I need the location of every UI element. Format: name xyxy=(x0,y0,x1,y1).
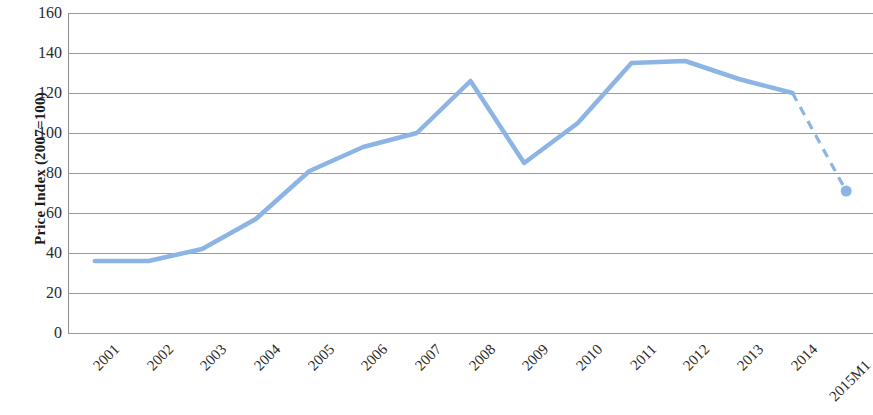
x-tick-label: 2009 xyxy=(519,341,552,374)
y-tick-label: 80 xyxy=(0,164,62,182)
plot-area xyxy=(68,13,873,333)
y-tick-label: 160 xyxy=(0,4,62,22)
y-tick-label: 120 xyxy=(0,84,62,102)
series-dashed-segment xyxy=(793,93,847,191)
y-tick-label: 40 xyxy=(0,244,62,262)
x-tick-label: 2002 xyxy=(143,341,176,374)
x-tick-label: 2003 xyxy=(197,341,230,374)
y-tick-label: 100 xyxy=(0,124,62,142)
x-tick-label: 2014 xyxy=(787,341,820,374)
data-point-marker xyxy=(841,186,852,197)
x-tick-label: 2004 xyxy=(251,341,284,374)
price-index-line-chart: Price Index (2007=100) 02040608010012014… xyxy=(0,0,873,415)
x-tick-label: 2011 xyxy=(627,341,660,374)
series-solid-segment xyxy=(95,61,793,261)
y-tick-label: 0 xyxy=(0,324,62,342)
x-tick-label: 2008 xyxy=(465,341,498,374)
x-tick-label: 2007 xyxy=(412,341,445,374)
y-axis-tick-labels: 020406080100120140160 xyxy=(0,0,62,415)
x-tick-label: 2015M1 xyxy=(826,357,873,405)
x-tick-label: 2012 xyxy=(680,341,713,374)
x-tick-label: 2005 xyxy=(304,341,337,374)
y-tick-label: 140 xyxy=(0,44,62,62)
x-tick-label: 2013 xyxy=(734,341,767,374)
y-tick-label: 60 xyxy=(0,204,62,222)
y-tick-label: 20 xyxy=(0,284,62,302)
series-price-index xyxy=(68,13,873,333)
x-tick-label: 2010 xyxy=(573,341,606,374)
series-data-point-markers xyxy=(841,186,852,197)
x-axis-tick-labels: 2001200220032004200520062007200820092010… xyxy=(68,333,873,415)
x-tick-label: 2006 xyxy=(358,341,391,374)
x-tick-label: 2001 xyxy=(90,341,123,374)
